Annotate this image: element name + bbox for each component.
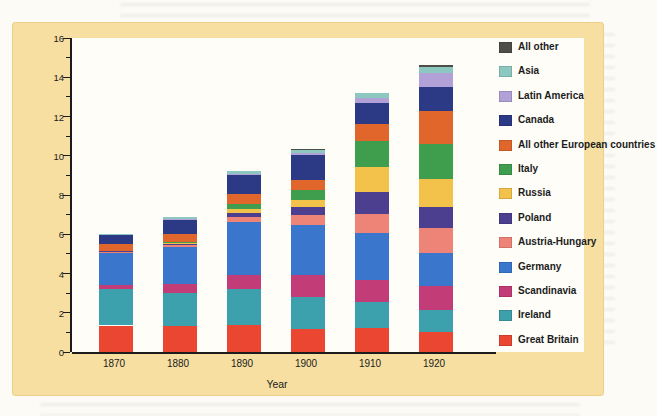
bar-segment-1910-russia [355,167,389,193]
legend-label: Canada [518,114,554,126]
bar-segment-1880-asia [163,217,197,219]
bar-segment-1900-latin-america [291,153,325,155]
legend-swatch [499,42,512,53]
y-minor-tick [66,175,70,176]
bar-segment-1910-latin-america [355,98,389,103]
y-minor-tick [66,293,70,294]
y-major-tick [63,352,70,353]
bar-segment-1880-latin-america [163,219,197,220]
bar-segment-1890-ireland [227,289,261,324]
legend-swatch [499,335,512,346]
bar-segment-1900-italy [291,190,325,200]
bar-segment-1920-russia [419,179,453,206]
y-tick-label: 0 [42,347,64,358]
x-tick-label-1870: 1870 [92,358,136,369]
bar-segment-1920-germany [419,253,453,286]
bar-segment-1920-all-other [419,65,453,67]
bar-segment-1910-asia [355,93,389,98]
bar-segment-1890-all-other-european-countries [227,194,261,204]
bar-segment-1890-russia [227,209,261,213]
chart-card: 0246810121416 All otherAsiaLatin America… [12,22,604,396]
legend-label: Great Britain [518,334,579,346]
legend-label: Austria-Hungary [518,236,596,248]
legend-item-latin-america: Latin America [499,91,657,102]
bar-segment-1870-great-britain [99,326,133,352]
bar-segment-1890-poland [227,213,261,217]
legend-item-canada: Canada [499,115,657,126]
bar-segment-1910-austria-hungary [355,214,389,234]
y-major-tick [63,38,70,39]
bar-segment-1880-canada [163,220,197,235]
legend-label: Scandinavia [518,285,576,297]
legend-swatch [499,286,512,297]
bar-segment-1910-poland [355,192,389,214]
x-axis-title: Year [222,378,332,390]
bar-segment-1920-ireland [419,310,453,333]
y-minor-tick [66,332,70,333]
legend-swatch [499,115,512,126]
bar-segment-1900-scandinavia [291,275,325,297]
bar-segment-1880-all-other-european-countries [163,234,197,242]
bar-segment-1910-italy [355,141,389,167]
bar-segment-1880-germany [163,247,197,284]
legend-swatch [499,91,512,102]
bar-segment-1920-poland [419,207,453,229]
bar-segment-1880-poland [163,244,197,245]
bar-segment-1880-italy [163,242,197,243]
x-tick-label-1910: 1910 [348,358,392,369]
x-tick-label-1900: 1900 [284,358,328,369]
legend-swatch [499,66,512,77]
bar-segment-1870-austria-hungary [99,252,133,253]
y-major-tick [63,195,70,196]
bar-segment-1880-austria-hungary [163,245,197,247]
legend-item-great-britain: Great Britain [499,335,657,346]
legend-item-asia: Asia [499,66,657,77]
bar-segment-1900-all-other-european-countries [291,180,325,190]
bar-segment-1910-canada [355,103,389,125]
bar-segment-1890-scandinavia [227,275,261,289]
bar-segment-1920-canada [419,87,453,111]
y-major-tick [63,273,70,274]
legend-item-all-other-european-countries: All other European countries [499,140,657,151]
y-tick-label: 8 [42,190,64,201]
y-minor-tick [66,57,70,58]
y-major-tick [63,116,70,117]
bar-segment-1900-canada [291,155,325,181]
bar-segment-1880-russia [163,243,197,244]
bar-segment-1870-scandinavia [99,285,133,289]
bar-segment-1900-ireland [291,297,325,329]
bar-segment-1870-all-other-european-countries [99,244,133,251]
bar-segment-1890-asia [227,171,261,174]
bar-segment-1910-germany [355,233,389,280]
legend: All otherAsiaLatin AmericaCanadaAll othe… [499,42,657,346]
y-tick-label: 12 [42,112,64,123]
legend-swatch [499,310,512,321]
bar-segment-1910-ireland [355,302,389,328]
x-tick-label-1920: 1920 [412,358,456,369]
bar-segment-1900-austria-hungary [291,215,325,226]
y-minor-tick [66,136,70,137]
bar-segment-1920-great-britain [419,332,453,352]
bar-segment-1900-poland [291,207,325,215]
y-minor-tick [66,253,70,254]
scan-bleed-bottom [40,400,580,416]
legend-label: Germany [518,261,561,273]
bar-segment-1920-italy [419,144,453,179]
y-major-tick [63,77,70,78]
legend-label: Russia [518,187,551,199]
legend-item-all-other: All other [499,42,657,53]
y-minor-tick [66,214,70,215]
y-tick-label: 4 [42,269,64,280]
x-axis-line [72,352,496,354]
bar-segment-1920-scandinavia [419,286,453,310]
bar-segment-1890-germany [227,222,261,275]
y-minor-tick [66,96,70,97]
bar-segment-1920-latin-america [419,73,453,87]
x-tick-label-1880: 1880 [156,358,200,369]
legend-item-germany: Germany [499,262,657,273]
legend-swatch [499,188,512,199]
bar-segment-1880-scandinavia [163,284,197,293]
bar-segment-1880-ireland [163,293,197,325]
y-tick-label: 14 [42,72,64,83]
plot-area: 0246810121416 All otherAsiaLatin America… [70,38,584,352]
